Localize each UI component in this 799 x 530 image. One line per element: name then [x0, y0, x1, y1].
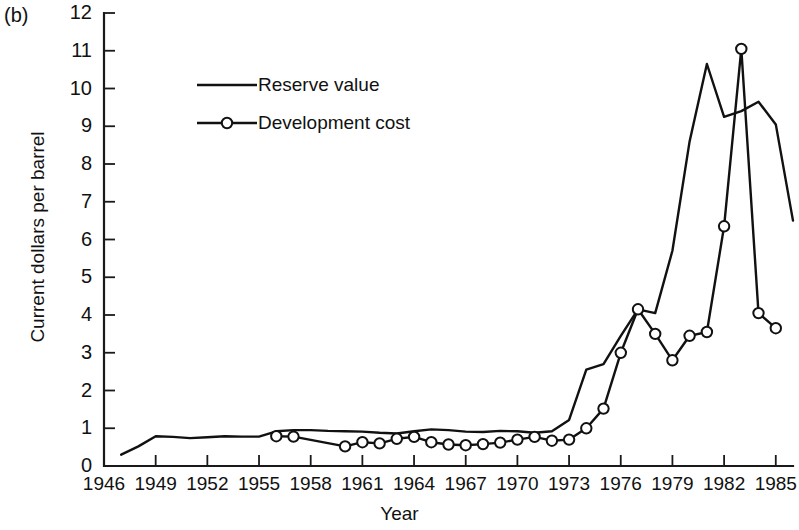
series-marker-development-cost: [409, 432, 419, 442]
y-tick-label-3: 3: [52, 342, 92, 362]
series-marker-development-cost: [547, 436, 557, 446]
series-marker-development-cost: [598, 403, 608, 413]
panel-label: (b): [4, 4, 28, 27]
y-tick-label-7: 7: [52, 191, 92, 211]
series-marker-development-cost: [529, 432, 539, 442]
y-tick-label-4: 4: [52, 304, 92, 324]
series-marker-development-cost: [461, 440, 471, 450]
y-tick-label-10: 10: [52, 78, 92, 98]
y-tick-label-2: 2: [52, 380, 92, 400]
series-marker-development-cost: [495, 437, 505, 447]
series-marker-development-cost: [271, 431, 281, 441]
series-marker-development-cost: [753, 308, 763, 318]
axis-lines: [104, 13, 793, 466]
legend-label-development-cost: Development cost: [258, 112, 410, 134]
legend-swatch-marker-1: [222, 118, 232, 128]
series-marker-development-cost: [616, 348, 626, 358]
y-tick-label-8: 8: [52, 153, 92, 173]
series-marker-development-cost: [512, 434, 522, 444]
legend-label-reserve-value: Reserve value: [258, 74, 379, 96]
y-tick-label-0: 0: [52, 455, 92, 475]
series-marker-development-cost: [633, 304, 643, 314]
series-marker-development-cost: [684, 331, 694, 341]
series-marker-development-cost: [564, 434, 574, 444]
x-axis-title: Year: [0, 503, 799, 525]
y-tick-label-11: 11: [52, 40, 92, 60]
y-tick-label-1: 1: [52, 417, 92, 437]
series-marker-development-cost: [340, 441, 350, 451]
series-marker-development-cost: [667, 355, 677, 365]
series-marker-development-cost: [702, 327, 712, 337]
series-marker-development-cost: [719, 221, 729, 231]
series-marker-development-cost: [374, 438, 384, 448]
series-marker-development-cost: [392, 434, 402, 444]
series-marker-development-cost: [736, 44, 746, 54]
series-marker-development-cost: [443, 439, 453, 449]
series-marker-development-cost: [581, 423, 591, 433]
plot-area: [0, 0, 799, 530]
y-tick-label-9: 9: [52, 115, 92, 135]
series-marker-development-cost: [771, 323, 781, 333]
y-axis-title: Current dollars per barrel: [27, 57, 49, 417]
y-tick-label-12: 12: [52, 2, 92, 22]
series-marker-development-cost: [288, 431, 298, 441]
series-marker-development-cost: [426, 437, 436, 447]
series-marker-development-cost: [478, 439, 488, 449]
y-tick-label-6: 6: [52, 229, 92, 249]
figure-panel: (b) Current dollars per barrel Year 0123…: [0, 0, 799, 530]
x-tick-label-1985: 1985: [741, 474, 799, 494]
data-series: [121, 44, 793, 455]
legend: [197, 85, 257, 128]
y-tick-label-5: 5: [52, 266, 92, 286]
series-marker-development-cost: [357, 437, 367, 447]
series-marker-development-cost: [650, 329, 660, 339]
series-line-development-cost: [276, 49, 776, 447]
axes: [104, 13, 793, 466]
